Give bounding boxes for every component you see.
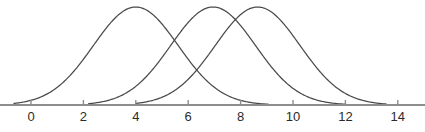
axis-tick-label-0: 0: [27, 109, 34, 124]
axis-tick-label-6: 6: [185, 109, 192, 124]
axis-tick-label-4: 4: [132, 109, 139, 124]
axis-tick-label-8: 8: [237, 109, 244, 124]
axis-tick-labels-group: 02468101214: [27, 109, 405, 124]
axis-tick-label-2: 2: [80, 109, 87, 124]
distribution-chart: 02468101214: [0, 0, 425, 132]
curve-3: [136, 7, 386, 104]
curve-1: [14, 7, 268, 104]
axis-tick-label-14: 14: [391, 109, 405, 124]
curves-group: [14, 7, 386, 104]
chart-canvas: 02468101214: [0, 0, 425, 132]
axis-tick-label-10: 10: [286, 109, 300, 124]
axis-tick-label-12: 12: [338, 109, 352, 124]
